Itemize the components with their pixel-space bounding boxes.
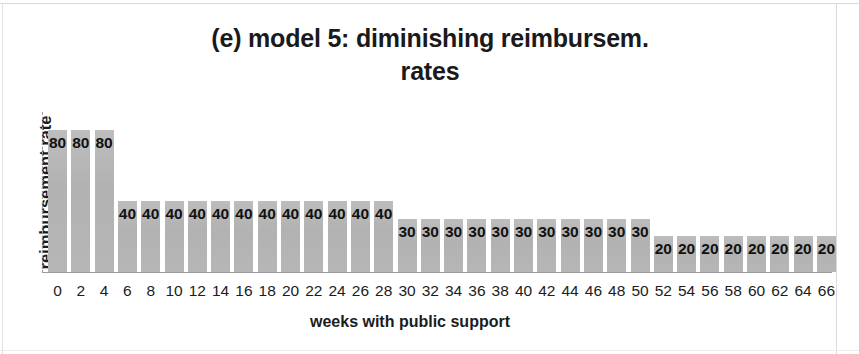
x-tick-label: 46 [580, 282, 606, 300]
x-tick-label: 60 [744, 282, 770, 300]
x-tick-label: 34 [441, 282, 467, 300]
bar-value-label: 20 [650, 240, 676, 258]
x-tick-label: 66 [813, 282, 839, 300]
bar-value-label: 30 [580, 223, 606, 241]
bar-value-label: 40 [231, 205, 257, 223]
bar-value-label: 40 [114, 205, 140, 223]
bar-value-label: 30 [394, 223, 420, 241]
chart-title: (e) model 5: diminishing reimbursem. rat… [120, 22, 740, 88]
x-tick-label: 56 [697, 282, 723, 300]
x-tick-label: 2 [68, 282, 94, 300]
bar-value-label: 20 [790, 240, 816, 258]
bar-value-label: 40 [324, 205, 350, 223]
x-tick-label: 52 [650, 282, 676, 300]
bar-series: 8080804040404040404040404040403030303030… [42, 112, 834, 273]
bar-value-label: 20 [767, 240, 793, 258]
x-tick-label: 50 [627, 282, 653, 300]
x-tick-label: 12 [184, 282, 210, 300]
bar-value-label: 20 [744, 240, 770, 258]
x-tick-label: 22 [301, 282, 327, 300]
x-tick-label: 24 [324, 282, 350, 300]
x-tick-label: 62 [767, 282, 793, 300]
page-border-left [2, 3, 3, 354]
bar-value-label: 40 [138, 205, 164, 223]
bar-value-label: 40 [278, 205, 304, 223]
x-tick-label: 14 [208, 282, 234, 300]
bar-value-label: 30 [417, 223, 443, 241]
x-tick-label: 58 [720, 282, 746, 300]
bar-value-label: 40 [301, 205, 327, 223]
x-tick-label: 26 [347, 282, 373, 300]
x-axis-tick-labels: 0246810121416182022242628303234363840424… [42, 282, 834, 304]
bar-value-label: 20 [720, 240, 746, 258]
bar-value-label: 30 [557, 223, 583, 241]
x-tick-label: 4 [91, 282, 117, 300]
bar-value-label: 80 [45, 134, 71, 152]
x-tick-label: 18 [254, 282, 280, 300]
x-tick-label: 64 [790, 282, 816, 300]
x-tick-label: 8 [138, 282, 164, 300]
x-axis-label: weeks with public support [0, 313, 820, 331]
bar-value-label: 20 [697, 240, 723, 258]
x-tick-label: 32 [417, 282, 443, 300]
bar-value-label: 30 [534, 223, 560, 241]
bar-value-label: 40 [254, 205, 280, 223]
x-tick-label: 48 [604, 282, 630, 300]
bar-value-label: 30 [464, 223, 490, 241]
x-tick-label: 36 [464, 282, 490, 300]
bar-value-label: 40 [208, 205, 234, 223]
x-tick-label: 6 [114, 282, 140, 300]
x-tick-label: 38 [487, 282, 513, 300]
x-tick-label: 10 [161, 282, 187, 300]
plot-area: 8080804040404040404040404040403030303030… [42, 112, 834, 273]
chart-title-line-2: rates [120, 55, 740, 88]
page-border-top [0, 3, 859, 4]
x-tick-label: 54 [674, 282, 700, 300]
x-tick-label: 28 [371, 282, 397, 300]
bar-value-label: 80 [68, 134, 94, 152]
bar-value-label: 40 [371, 205, 397, 223]
x-tick-label: 42 [534, 282, 560, 300]
bar-value-label: 20 [674, 240, 700, 258]
x-tick-label: 40 [511, 282, 537, 300]
bar-value-label: 30 [604, 223, 630, 241]
chart-title-line-1: (e) model 5: diminishing reimbursem. [120, 22, 740, 55]
x-tick-label: 0 [45, 282, 71, 300]
bar-value-label: 30 [627, 223, 653, 241]
bar-value-label: 20 [813, 240, 839, 258]
x-tick-label: 20 [278, 282, 304, 300]
bar-value-label: 40 [347, 205, 373, 223]
page-border-bottom [0, 350, 859, 351]
x-tick-label: 44 [557, 282, 583, 300]
bar-value-label: 30 [511, 223, 537, 241]
bar-value-label: 30 [487, 223, 513, 241]
bar-value-label: 40 [161, 205, 187, 223]
x-tick-label: 30 [394, 282, 420, 300]
page-border-right [836, 3, 837, 354]
x-tick-label: 16 [231, 282, 257, 300]
bar-value-label: 30 [441, 223, 467, 241]
bar-value-label: 80 [91, 134, 117, 152]
bar-value-label: 40 [184, 205, 210, 223]
chart-figure: (e) model 5: diminishing reimbursem. rat… [0, 0, 859, 354]
